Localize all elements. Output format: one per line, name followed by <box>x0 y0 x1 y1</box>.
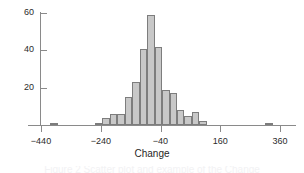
histogram-bar <box>162 90 170 126</box>
y-axis-spine <box>40 12 41 126</box>
histogram-bar <box>110 114 118 125</box>
x-axis-tick-label: −440 <box>18 136 64 146</box>
histogram-bar <box>50 123 58 125</box>
x-axis-tick-label: −240 <box>78 136 124 146</box>
x-axis-tick <box>280 126 281 132</box>
y-axis-tick-label: 20 <box>12 83 34 92</box>
x-axis-spine <box>28 125 296 126</box>
x-axis-tick-label: 360 <box>257 136 303 146</box>
x-axis-tick <box>101 126 102 132</box>
y-axis-tick-label: 60 <box>12 8 34 17</box>
y-axis-tick-label: 40 <box>12 45 34 54</box>
histogram-bar <box>265 123 273 125</box>
x-axis-tick <box>161 126 162 132</box>
x-axis-tick-label: 160 <box>197 136 243 146</box>
histogram-bar <box>102 118 110 126</box>
histogram-bar <box>192 112 200 125</box>
histogram-figure: 204060 −440−240−40160360 Change Figure 2… <box>0 0 304 173</box>
histogram-bar <box>177 110 185 125</box>
x-axis-tick-label: −40 <box>138 136 184 146</box>
histogram-bar <box>147 15 155 125</box>
histogram-bar <box>170 93 178 125</box>
histogram-bar <box>117 114 125 125</box>
x-axis-tick <box>220 126 221 132</box>
figure-caption-clipped: Figure 2 Scatter plot and example of the… <box>0 166 304 173</box>
histogram-bar <box>95 123 103 125</box>
histogram-bar <box>125 97 133 125</box>
histogram-bar <box>132 82 140 125</box>
histogram-bar <box>199 121 207 125</box>
y-axis-tick <box>41 50 47 51</box>
x-axis-title: Change <box>0 148 304 159</box>
plot-area: 204060 −440−240−40160360 <box>0 0 304 132</box>
x-axis-tick <box>41 126 42 132</box>
y-axis-tick <box>41 13 47 14</box>
histogram-bar <box>184 116 192 125</box>
y-axis-tick <box>41 88 47 89</box>
histogram-bar <box>140 49 148 126</box>
histogram-bar <box>155 47 163 125</box>
figure-caption-text: Figure 2 Scatter plot and example of the… <box>0 166 304 173</box>
